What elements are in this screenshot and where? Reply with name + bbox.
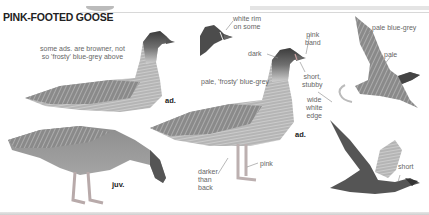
annotation-darker-than-back: darker than back <box>198 168 218 192</box>
age-label-adult-center: ad. <box>295 130 306 139</box>
annotation-short-stubby: short, stubby <box>302 73 323 89</box>
goose-juvenile-feeding <box>8 126 166 203</box>
annotation-short: short <box>398 163 414 171</box>
annotation-pale-frosty: pale, 'frosty' blue-grey <box>201 78 269 86</box>
bottom-divider <box>0 212 429 215</box>
goose-adult-standing-center <box>150 48 306 180</box>
annotation-pale-blue-grey: pale blue-grey <box>372 24 416 32</box>
age-label-juvenile: juv. <box>112 180 124 189</box>
annotation-some-browner: some ads. are browner, not so 'frosty' b… <box>40 45 125 61</box>
goose-head-inset <box>200 25 233 56</box>
annotation-pink-band: pink band <box>305 31 321 47</box>
goose-flying-lower <box>330 120 420 194</box>
annotation-pink: pink <box>260 160 273 168</box>
age-label-adult-left: ad. <box>165 96 176 105</box>
annotation-wide-white-edge: wide white edge <box>306 96 322 120</box>
annotation-dark: dark <box>248 50 262 58</box>
annotation-pale: pale <box>384 51 397 59</box>
annotation-white-rim: white rim on some <box>233 15 261 31</box>
goose-adult-standing-left <box>25 31 175 112</box>
